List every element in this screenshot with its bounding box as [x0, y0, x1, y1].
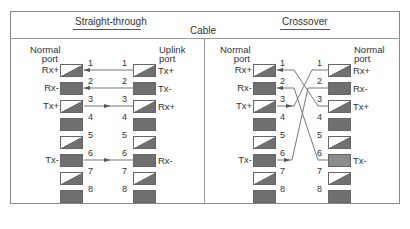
crossover-right-port-pin-5	[328, 136, 351, 149]
crossover-right-port-pin-2	[328, 82, 351, 95]
crossover-left-signal-label: Tx+	[223, 101, 252, 111]
straight-right-pin-number: 2	[122, 76, 127, 86]
straight-right-port-pin-5	[133, 136, 156, 149]
crossover-right-pin-number: 1	[317, 58, 322, 68]
crossover-right-signal-label: Tx+	[353, 102, 369, 112]
crossover-left-pin-number: 1	[280, 58, 285, 68]
straight-right-pin-number: 7	[122, 166, 127, 176]
crossover-left-port-pin-5	[253, 136, 276, 149]
crossover-left-port-pin-3	[253, 100, 276, 113]
straight-right-pin-number: 3	[122, 94, 127, 104]
crossover-right-port-pin-7	[328, 172, 351, 185]
crossover-left-pin-number: 7	[280, 166, 285, 176]
straight-left-signal-label: Tx-	[30, 155, 59, 165]
straight-right-port-pin-1	[133, 64, 156, 77]
crossover-right-signal-label: Rx+	[353, 66, 370, 76]
crossover-right-pin-number: 8	[317, 184, 322, 194]
straight-left-pin-number: 2	[88, 76, 93, 86]
straight-right-signal-label: Tx+	[158, 66, 174, 76]
straight-left-port-pin-7	[60, 172, 83, 185]
crossover-right-pin-number: 2	[317, 76, 322, 86]
straight-right-pin-number: 5	[122, 130, 127, 140]
straight-right-port-pin-2	[133, 82, 156, 95]
straight-left-port-pin-2	[60, 82, 83, 95]
straight-right-pin-number: 8	[122, 184, 127, 194]
straight-left-pin-number: 6	[88, 148, 93, 158]
straight-left-port-pin-5	[60, 136, 83, 149]
straight-right-signal-label: Rx+	[158, 102, 175, 112]
crossover-right-port-pin-4	[328, 118, 351, 131]
crossover-right-pin-number: 6	[317, 148, 322, 158]
crossover-left-port-pin-1	[253, 64, 276, 77]
crossover-left-pin-number: 5	[280, 130, 285, 140]
crossover-left-signal-label: Rx+	[223, 65, 252, 75]
straight-right-pin-number: 4	[122, 112, 127, 122]
straight-right-port-pin-8	[133, 190, 156, 203]
straight-left-pin-number: 8	[88, 184, 93, 194]
crossover-left-port-pin-4	[253, 118, 276, 131]
straight-left-pin-number: 3	[88, 94, 93, 104]
straight-left-port-pin-8	[60, 190, 83, 203]
crossover-right-signal-label: Tx-	[353, 156, 367, 166]
crossover-right-pin-number: 7	[317, 166, 322, 176]
crossover-left-port-pin-6	[253, 154, 276, 167]
straight-left-port-pin-4	[60, 118, 83, 131]
straight-left-signal-label: Rx-	[30, 83, 59, 93]
crossover-left-signal-label: Rx-	[223, 83, 252, 93]
straight-right-port-pin-6	[133, 154, 156, 167]
straight-right-signal-label: Rx-	[158, 156, 173, 166]
crossover-left-pin-number: 8	[280, 184, 285, 194]
crossover-wire-6-2b	[290, 88, 328, 160]
crossover-left-port-pin-7	[253, 172, 276, 185]
crossover-right-pin-number: 4	[317, 112, 322, 122]
straight-left-port-pin-6	[60, 154, 83, 167]
straight-right-port-pin-3	[133, 100, 156, 113]
straight-right-port-pin-7	[133, 172, 156, 185]
crossover-right-port-pin-8	[328, 190, 351, 203]
straight-right-pin-number: 1	[122, 58, 127, 68]
crossover-right-port-pin-6	[328, 154, 351, 167]
crossover-right-pin-number: 5	[317, 130, 322, 140]
crossover-right-port-pin-1	[328, 64, 351, 77]
crossover-left-port-pin-8	[253, 190, 276, 203]
straight-right-port-pin-4	[133, 118, 156, 131]
crossover-right-port-pin-3	[328, 100, 351, 113]
straight-left-port-pin-3	[60, 100, 83, 113]
straight-left-pin-number: 5	[88, 130, 93, 140]
straight-left-pin-number: 7	[88, 166, 93, 176]
straight-right-pin-number: 6	[122, 148, 127, 158]
crossover-left-port-pin-2	[253, 82, 276, 95]
crossover-left-signal-label: Tx-	[223, 155, 252, 165]
crossover-left-pin-number: 6	[280, 148, 285, 158]
straight-left-pin-number: 4	[88, 112, 93, 122]
straight-left-signal-label: Tx+	[30, 101, 59, 111]
straight-left-signal-label: Rx+	[30, 65, 59, 75]
straight-right-signal-label: Tx-	[158, 84, 172, 94]
crossover-left-pin-number: 2	[280, 76, 285, 86]
straight-left-pin-number: 1	[88, 58, 93, 68]
crossover-left-pin-number: 3	[280, 94, 285, 104]
straight-left-port-pin-1	[60, 64, 83, 77]
crossover-right-signal-label: Rx-	[353, 84, 368, 94]
crossover-left-pin-number: 4	[280, 112, 285, 122]
crossover-right-pin-number: 3	[317, 94, 322, 104]
